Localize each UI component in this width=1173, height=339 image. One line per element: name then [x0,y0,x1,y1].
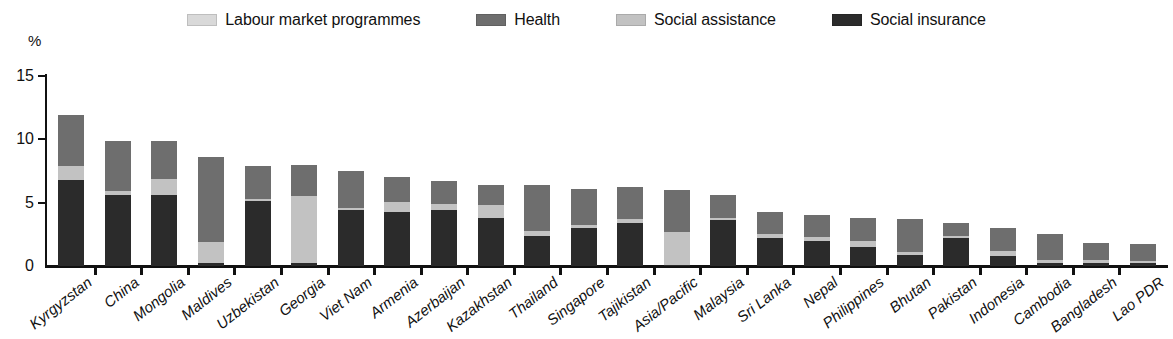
bar-segment [151,179,177,195]
bar-group[interactable] [850,218,876,266]
legend-item[interactable]: Social assistance [616,12,776,28]
bar-segment [710,220,736,266]
bar-group[interactable] [664,190,690,266]
bar-segment [664,265,690,266]
x-axis-tick-mark [653,268,656,275]
legend-swatch-icon [832,14,862,26]
x-axis-tick-mark [280,268,283,275]
legend-item[interactable]: Labour market programmes [187,12,420,28]
bar-group[interactable] [804,215,830,266]
x-axis-tick-mark [373,268,376,275]
bar-group[interactable] [943,223,969,266]
bar-segment [1130,244,1156,260]
bar-segment [850,247,876,266]
x-axis-tick-mark [513,268,516,275]
bar-group[interactable] [897,219,923,266]
x-axis-tick-mark [327,268,330,275]
legend-item-label: Social insurance [870,12,986,28]
bar-group[interactable] [1037,234,1063,266]
y-axis-tick-mark [38,202,46,204]
bar-segment [524,185,550,231]
bar-segment [431,181,457,204]
bar-segment [1037,234,1063,259]
bar-group[interactable] [245,166,271,266]
bar-group[interactable] [757,212,783,266]
x-axis-tick-mark [94,268,97,275]
y-axis-tick-mark [38,138,46,140]
bar-segment [105,195,131,266]
x-axis-tick-mark [606,268,609,275]
bar-segment [804,215,830,237]
bar-segment [478,205,504,218]
x-axis-tick-mark [1118,268,1121,275]
bar-segment [291,263,317,266]
bar-group[interactable] [1130,244,1156,266]
bar-segment [943,238,969,266]
stacked-bar-chart: Labour market programmesHealthSocial ass… [0,0,1173,339]
bar-segment [291,165,317,197]
bar-segment [1083,263,1109,266]
x-axis-tick-mark [233,268,236,275]
bar-segment [58,115,84,166]
bar-segment [431,210,457,266]
bar-group[interactable] [1083,243,1109,266]
bar-group[interactable] [478,185,504,266]
bar-group[interactable] [571,189,597,266]
bar-group[interactable] [384,177,410,266]
bar-segment [571,189,597,226]
bar-segment [151,141,177,179]
y-axis-line [45,74,47,268]
legend-item-label: Social assistance [654,12,776,28]
bar-segment [617,187,643,219]
bar-segment [478,185,504,205]
y-axis-tick-label: 15 [4,68,34,84]
bar-segment [384,202,410,212]
bar-segment [245,201,271,266]
bar-group[interactable] [58,115,84,266]
legend-item-label: Health [514,12,560,28]
bar-group[interactable] [105,141,131,266]
plot-area [48,76,1168,266]
x-axis-tick-label: Nepal [800,274,840,310]
bar-group[interactable] [524,185,550,266]
x-axis-tick-label: Mongolia [130,274,187,323]
bar-group[interactable] [431,181,457,266]
bar-group[interactable] [990,228,1016,266]
bar-segment [338,210,364,266]
bar-segment [664,190,690,232]
bar-group[interactable] [291,165,317,266]
y-axis-tick-label: 5 [4,195,34,211]
bar-segment [58,180,84,266]
bar-segment [990,256,1016,266]
bar-segment [384,212,410,266]
bar-segment [384,177,410,202]
bar-group[interactable] [151,141,177,266]
x-axis-tick-mark [792,268,795,275]
bar-segment [757,238,783,266]
bar-group[interactable] [617,187,643,266]
bar-group[interactable] [198,157,224,266]
x-axis-tick-mark [1072,268,1075,275]
bar-segment [710,195,736,218]
x-axis-tick-label: Lao PDR [1109,274,1166,323]
legend-item[interactable]: Social insurance [832,12,986,28]
x-axis-tick-mark [559,268,562,275]
legend-item[interactable]: Health [476,12,560,28]
bar-segment [1037,263,1063,266]
x-axis-tick-mark [140,268,143,275]
bar-segment [105,141,131,190]
bar-segment [897,219,923,252]
legend-item-label: Labour market programmes [225,12,420,28]
bar-segment [524,236,550,266]
x-axis-tick-labels: KyrgyzstanChinaMongoliaMaldivesUzbekista… [0,268,1173,339]
bar-group[interactable] [338,171,364,266]
x-axis-tick-mark [420,268,423,275]
x-axis-tick-mark [886,268,889,275]
x-axis-tick-mark [746,268,749,275]
bar-segment [1130,263,1156,266]
bar-segment [850,218,876,241]
y-axis-tick-mark [38,75,46,77]
x-axis-tick-label: Viet Nam [316,274,374,324]
bar-group[interactable] [710,195,736,266]
bar-segment [245,166,271,199]
